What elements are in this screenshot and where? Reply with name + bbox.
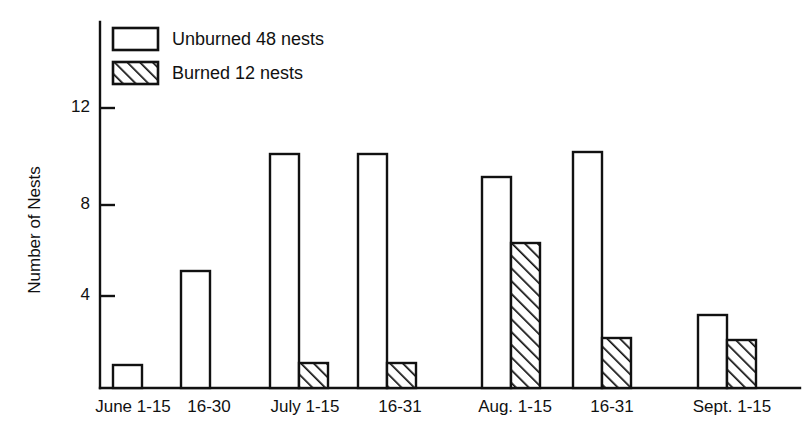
y-axis-ticks: [100, 108, 115, 296]
bar-unburned-16-31-july: [358, 154, 387, 388]
bar-unburned-16-30: [181, 271, 210, 388]
bar-chart-figure: 12 8 4 Number of Nests June 1-15 16-30: [0, 0, 808, 443]
x-label-july-1-15: July 1-15: [271, 397, 340, 416]
y-tick-label-8: 8: [81, 194, 90, 213]
chart-canvas: 12 8 4 Number of Nests June 1-15 16-30: [0, 0, 808, 443]
series-unburned-bars: [113, 152, 727, 388]
bar-burned-aug-1-15: [511, 243, 540, 388]
x-label-aug-1-15: Aug. 1-15: [478, 397, 552, 416]
x-label-june-1-15: June 1-15: [95, 397, 171, 416]
bar-burned-sept-1-15: [727, 340, 756, 388]
legend-swatch-unburned: [113, 28, 158, 50]
bar-unburned-july-1-15: [270, 154, 299, 388]
bar-unburned-sept-1-15: [698, 315, 727, 388]
y-tick-label-4: 4: [81, 285, 90, 304]
legend-swatch-burned: [113, 62, 158, 84]
legend-label-burned: Burned 12 nests: [172, 63, 303, 83]
x-label-sept-1-15: Sept. 1-15: [693, 397, 771, 416]
bar-unburned-aug-1-15: [482, 177, 511, 388]
chart-legend: Unburned 48 nests Burned 12 nests: [113, 28, 324, 84]
bar-burned-16-31-aug: [602, 338, 631, 388]
bar-unburned-june-1-15: [113, 365, 142, 388]
x-axis-category-labels: June 1-15 16-30 July 1-15 16-31 Aug. 1-1…: [95, 397, 771, 416]
x-label-16-31-july: 16-31: [378, 397, 421, 416]
y-tick-label-12: 12: [71, 97, 90, 116]
bar-burned-16-31-july: [387, 363, 416, 388]
x-label-16-30: 16-30: [187, 397, 230, 416]
x-label-16-31-aug: 16-31: [590, 397, 633, 416]
y-axis-title: Number of Nests: [25, 166, 44, 294]
legend-label-unburned: Unburned 48 nests: [172, 29, 324, 49]
bar-burned-july-1-15: [299, 363, 328, 388]
bar-unburned-16-31-aug: [573, 152, 602, 388]
